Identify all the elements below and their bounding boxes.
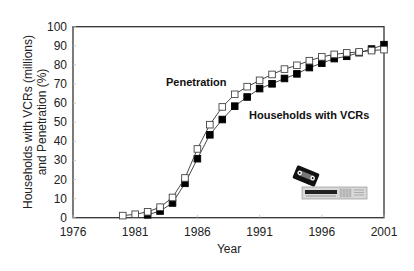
open-square-marker	[144, 208, 151, 215]
videocassette-icon	[292, 165, 319, 187]
open-square-marker	[356, 49, 363, 56]
open-square-marker	[306, 57, 313, 64]
open-square-marker	[157, 204, 164, 211]
filled-square-marker	[306, 64, 313, 71]
open-square-marker	[269, 71, 276, 78]
open-square-marker	[119, 212, 126, 219]
y-tick-label: 100	[47, 20, 67, 34]
open-square-marker	[244, 83, 251, 90]
y-tick-label: 50	[54, 115, 68, 129]
vcr-clipart	[292, 165, 367, 199]
filled-square-marker	[231, 103, 238, 110]
open-square-marker	[281, 66, 288, 73]
open-square-marker	[219, 104, 226, 111]
penetration-label: Penetration	[166, 76, 227, 88]
x-tick-label: 1981	[122, 225, 149, 239]
y-axis-title-line2: and Penetration (%)	[35, 69, 49, 176]
filled-square-marker	[244, 94, 251, 101]
filled-square-marker	[207, 132, 214, 139]
open-square-marker	[132, 211, 139, 218]
filled-square-marker	[319, 60, 326, 67]
open-square-marker	[294, 62, 301, 69]
filled-square-marker	[219, 116, 226, 123]
open-square-marker	[368, 47, 375, 54]
x-tick-label: 1986	[184, 225, 211, 239]
households-label: Households with VCRs	[249, 109, 369, 121]
open-square-marker	[319, 54, 326, 61]
y-tick-label: 10	[54, 192, 68, 206]
filled-square-marker	[294, 71, 301, 78]
y-axis-title-2: and Penetration (%)	[35, 69, 49, 176]
y-tick-label: 70	[54, 77, 68, 91]
filled-square-marker	[194, 155, 201, 162]
filled-square-marker	[269, 81, 276, 88]
x-tick-label: 2001	[371, 225, 398, 239]
filled-square-marker	[256, 85, 263, 92]
y-axis-title: Households with VCRs (millions)	[21, 35, 35, 209]
open-square-marker	[343, 50, 350, 57]
open-square-marker	[207, 121, 214, 128]
open-square-marker	[231, 91, 238, 98]
open-square-marker	[169, 194, 176, 201]
open-square-marker	[182, 175, 189, 182]
x-axis-title: Year	[217, 242, 241, 256]
y-axis-title-line1: Households with VCRs (millions)	[21, 35, 35, 209]
x-tick-label: 1976	[60, 225, 87, 239]
open-square-marker	[256, 77, 263, 84]
open-square-marker	[194, 146, 201, 153]
vcr-deck-icon	[302, 187, 367, 199]
y-tick-label: 90	[54, 39, 68, 53]
x-tick-label: 1996	[308, 225, 335, 239]
y-tick-label: 60	[54, 96, 68, 110]
y-tick-label: 30	[54, 153, 68, 167]
filled-square-marker	[281, 75, 288, 82]
open-square-marker	[381, 46, 388, 53]
vcr-penetration-chart: 0102030405060708090100 19761981198619911…	[0, 0, 414, 271]
y-tick-label: 40	[54, 134, 68, 148]
y-tick-label: 20	[54, 173, 68, 187]
y-tick-label: 0	[60, 211, 67, 225]
open-square-marker	[331, 51, 338, 58]
y-axis: 0102030405060708090100	[47, 20, 76, 225]
y-tick-label: 80	[54, 58, 68, 72]
x-tick-label: 1991	[246, 225, 273, 239]
